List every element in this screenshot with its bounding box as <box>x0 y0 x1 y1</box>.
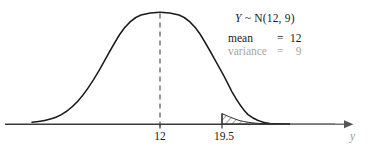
parameter-equals-mean: = <box>277 32 288 45</box>
parameter-table: mean = 12 variance = 9 <box>228 32 301 58</box>
parameter-row-mean: mean = 12 <box>228 32 301 45</box>
parameter-name-variance: variance <box>228 45 277 58</box>
parameter-value-variance: 9 <box>287 45 301 58</box>
distribution-spec: N(12, 9) <box>254 12 295 24</box>
distribution-variable: Y <box>235 12 242 24</box>
shaded-tail-region <box>218 105 298 129</box>
annotation-block: Y ~ N(12, 9) mean = 12 variance = 9 <box>228 12 358 58</box>
parameter-equals-variance: = <box>277 45 288 58</box>
x-axis-name-label: y <box>350 130 355 142</box>
parameter-row-variance: variance = 9 <box>228 45 301 58</box>
distribution-notation: Y ~ N(12, 9) <box>235 12 358 24</box>
parameter-value-mean: 12 <box>287 32 301 45</box>
axis-tick-label-mean: 12 <box>154 130 166 142</box>
parameter-name-mean: mean <box>228 32 277 45</box>
normal-distribution-figure: 12 19.5 y Y ~ N(12, 9) mean = 12 varianc… <box>0 0 369 165</box>
axis-tick-label-cutoff: 19.5 <box>214 130 234 142</box>
